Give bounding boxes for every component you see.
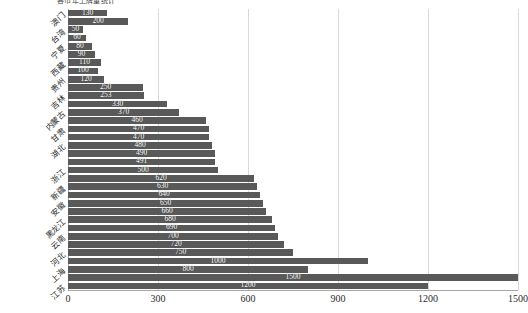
bar-row[interactable]: 1200 xyxy=(68,282,518,290)
bar-row[interactable]: 100 xyxy=(68,67,518,75)
bar-value-label: 200 xyxy=(92,17,103,25)
bar-value-label: 370 xyxy=(118,108,129,116)
bar-row[interactable]: 130 xyxy=(68,9,518,17)
gridline-1500 xyxy=(518,9,519,290)
chart-title: 各市年上牌量统计 xyxy=(57,0,115,5)
bar-value-label: 253 xyxy=(100,91,111,99)
bar-value-label: 1200 xyxy=(241,281,256,289)
bar-row[interactable]: 253 xyxy=(68,92,518,100)
bar-row[interactable]: 250 xyxy=(68,83,518,91)
bar-value-label: 800 xyxy=(182,265,193,273)
bar-row[interactable]: 1500 xyxy=(68,273,518,281)
bar-row[interactable]: 650 xyxy=(68,199,518,207)
bar-row[interactable]: 750 xyxy=(68,249,518,257)
bar-value-label: 1000 xyxy=(211,257,226,265)
bar-value-label: 500 xyxy=(137,166,148,174)
x-tick-label-600: 600 xyxy=(241,293,256,304)
bar-row[interactable]: 630 xyxy=(68,183,518,191)
x-tick-label-300: 300 xyxy=(151,293,166,304)
bar-row[interactable]: 90 xyxy=(68,50,518,58)
bar-row[interactable]: 690 xyxy=(68,224,518,232)
bar-row[interactable]: 491 xyxy=(68,158,518,166)
bar-row[interactable]: 620 xyxy=(68,174,518,182)
bar-row[interactable]: 80 xyxy=(68,42,518,50)
bar-row[interactable]: 1000 xyxy=(68,257,518,265)
bar-value-label: 1500 xyxy=(286,273,301,281)
x-axis-line xyxy=(68,290,518,291)
bar-row[interactable]: 50 xyxy=(68,26,518,34)
bar-row[interactable]: 660 xyxy=(68,207,518,215)
bar-value-label: 750 xyxy=(175,248,186,256)
bar-row[interactable]: 60 xyxy=(68,34,518,42)
bar-row[interactable]: 330 xyxy=(68,100,518,108)
bar-row[interactable]: 500 xyxy=(68,166,518,174)
x-tick-label-900: 900 xyxy=(331,293,346,304)
bar-row[interactable]: 720 xyxy=(68,240,518,248)
bar-row[interactable]: 640 xyxy=(68,191,518,199)
bar-row[interactable]: 120 xyxy=(68,75,518,83)
x-tick-label-1500: 1500 xyxy=(508,293,528,304)
bar-row[interactable]: 200 xyxy=(68,17,518,25)
bar-row[interactable]: 680 xyxy=(68,216,518,224)
bar-row[interactable]: 700 xyxy=(68,232,518,240)
bar-value-label: 120 xyxy=(80,75,91,83)
bar-row[interactable]: 110 xyxy=(68,59,518,67)
x-tick-label-0: 0 xyxy=(66,293,71,304)
plot-area: 1302005060809011010012025025333037046047… xyxy=(68,9,518,290)
x-tick-label-1200: 1200 xyxy=(418,293,438,304)
